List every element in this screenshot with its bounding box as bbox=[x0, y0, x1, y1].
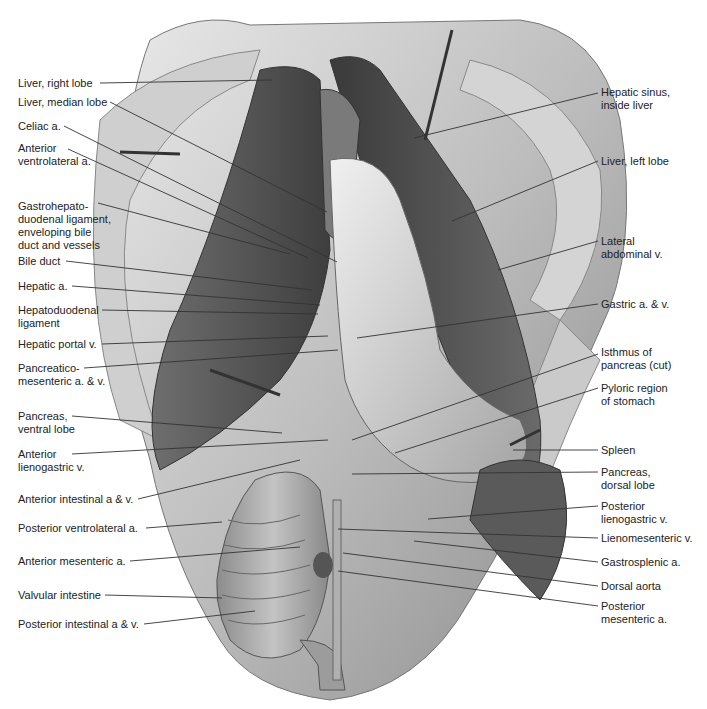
label-posterior-ventrolateral-a: Posterior ventrolateral a. bbox=[18, 522, 138, 535]
label-posterior-intestinal-av: Posterior intestinal a & v. bbox=[18, 618, 139, 631]
label-pancreas-ventral-lobe: Pancreas, ventral lobe bbox=[18, 410, 75, 436]
label-lienomesenteric-v: Lienomesenteric v. bbox=[601, 532, 693, 545]
label-anterior-ventrolateral-a: Anterior ventrolateral a. bbox=[18, 142, 91, 168]
label-dorsal-aorta: Dorsal aorta bbox=[601, 580, 661, 593]
label-spleen: Spleen bbox=[601, 444, 635, 457]
label-posterior-mesenteric-a: Posterior mesenteric a. bbox=[601, 600, 667, 626]
label-bile-duct: Bile duct bbox=[18, 255, 60, 268]
dorsal-aorta-shape bbox=[333, 500, 341, 680]
label-valvular-intestine: Valvular intestine bbox=[18, 589, 101, 602]
label-hepatic-a: Hepatic a. bbox=[18, 280, 68, 293]
label-gastrosplenic-a: Gastrosplenic a. bbox=[601, 556, 680, 569]
label-anterior-lienogastric-v: Anterior lienogastric v. bbox=[18, 448, 84, 474]
label-hepatoduodenal-ligament: Hepatoduodenal ligament bbox=[18, 304, 99, 330]
label-anterior-intestinal-av: Anterior intestinal a & v. bbox=[18, 493, 133, 506]
label-anterior-mesenteric-a: Anterior mesenteric a. bbox=[18, 555, 126, 568]
label-pancreas-dorsal-lobe: Pancreas, dorsal lobe bbox=[601, 466, 655, 492]
spleen bbox=[470, 460, 567, 600]
aorta-cross-section bbox=[313, 552, 333, 578]
label-celiac-a: Celiac a. bbox=[18, 120, 61, 133]
label-liver-median-lobe: Liver, median lobe bbox=[18, 96, 107, 109]
label-liver-left-lobe: Liver, left lobe bbox=[601, 155, 669, 168]
label-pancreaticomesenteric-av: Pancreatico- mesenteric a. & v. bbox=[18, 362, 105, 388]
label-posterior-lienogastric-v: Posterior lienogastric v. bbox=[601, 500, 667, 526]
label-hepatic-sinus: Hepatic sinus, inside liver bbox=[601, 86, 670, 112]
label-hepatic-portal-v: Hepatic portal v. bbox=[18, 338, 97, 351]
label-pyloric-region: Pyloric region of stomach bbox=[601, 382, 668, 408]
label-lateral-abdominal-v: Lateral abdominal v. bbox=[601, 235, 663, 261]
label-isthmus-of-pancreas: Isthmus of pancreas (cut) bbox=[601, 346, 671, 372]
label-liver-right-lobe: Liver, right lobe bbox=[18, 77, 93, 90]
label-gastrohepatoduodenal-ligament: Gastrohepato- duodenal ligament, envelop… bbox=[18, 200, 111, 252]
label-gastric-av: Gastric a. & v. bbox=[601, 298, 669, 311]
